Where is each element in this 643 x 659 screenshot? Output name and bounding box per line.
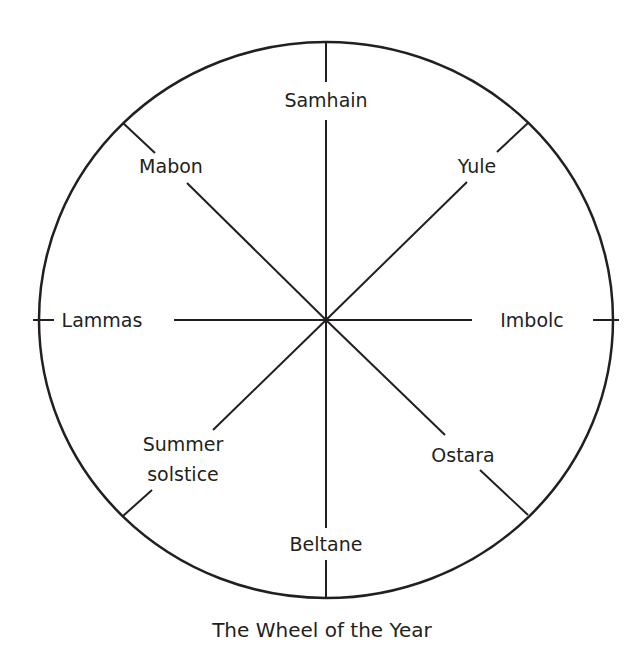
- label-imbolc: Imbolc: [500, 309, 564, 331]
- label-yule: Yule: [457, 155, 496, 177]
- spoke-yule-outer: [497, 123, 528, 152]
- spoke-mabon-inner: [187, 183, 326, 320]
- spoke-yule-inner: [326, 182, 467, 320]
- label-mabon: Mabon: [139, 155, 203, 177]
- label-ostara: Ostara: [431, 444, 494, 466]
- wheel-hub: [324, 318, 329, 323]
- diagram-caption: The Wheel of the Year: [211, 618, 432, 642]
- label-samhain: Samhain: [284, 89, 367, 111]
- spoke-mabon-outer: [123, 123, 155, 153]
- label-lammas: Lammas: [62, 309, 143, 331]
- wheel-of-the-year-diagram: Samhain Yule Mabon Lammas Imbolc Summer …: [0, 0, 643, 659]
- label-beltane: Beltane: [290, 533, 363, 555]
- spoke-ostara-inner: [326, 320, 445, 435]
- label-summer-solstice-line1: Summer: [143, 433, 224, 455]
- spoke-ostara-outer: [480, 470, 528, 515]
- spoke-summer-solstice-inner: [213, 320, 326, 430]
- spoke-summer-solstice-outer: [123, 490, 152, 516]
- label-summer-solstice-line2: solstice: [147, 463, 219, 485]
